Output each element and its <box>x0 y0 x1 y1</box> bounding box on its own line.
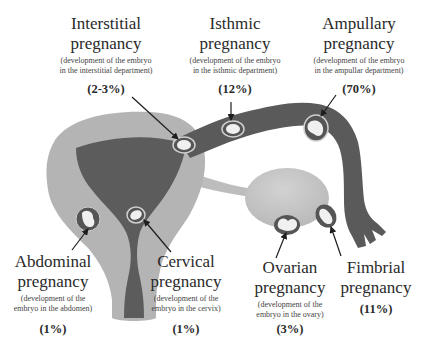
embryo-ampullary <box>304 115 328 141</box>
isthmic-desc-line1: (development of the embryo <box>180 56 290 66</box>
arrow-fimbrial <box>331 227 341 256</box>
ovarian-title-line1: Ovarian <box>252 258 328 278</box>
embryo-isthmic <box>222 121 244 137</box>
cervical-desc-line2: embryo in the cervix) <box>146 304 226 314</box>
cervical-percent: (1%) <box>146 323 226 336</box>
ovarian-percent: (3%) <box>252 323 328 336</box>
interstitial-desc-line1: (development of the embryo <box>46 56 166 66</box>
ovarian-desc-line1: (development of the <box>252 300 328 310</box>
interstitial-title-line2: pregnancy <box>46 34 166 54</box>
cervical-title-line1: Cervical <box>146 252 226 272</box>
isthmic-title-line2: pregnancy <box>180 34 290 54</box>
fimbrial-title-line2: pregnancy <box>336 278 416 298</box>
fimbrial-percent: (11%) <box>336 303 416 316</box>
arrow-ovarian <box>276 233 286 258</box>
embryo-ovarian <box>274 215 300 235</box>
cervical-desc-line1: (development of the <box>146 294 226 304</box>
ovarian-title-line2: pregnancy <box>252 278 328 298</box>
interstitial-desc-line2: in the interstitial department) <box>46 66 166 76</box>
ampullary-title-line2: pregnancy <box>304 34 414 54</box>
ampullary-title-line1: Ampullary <box>304 14 414 34</box>
label-isthmic: Isthmic pregnancy (development of the em… <box>180 14 290 96</box>
embryo-cervical <box>127 207 145 223</box>
abdominal-title-line1: Abdominal <box>8 252 98 272</box>
label-interstitial: Interstitial pregnancy (development of t… <box>46 14 166 96</box>
ampullary-desc-line1: (development of the embryo <box>304 56 414 66</box>
abdominal-desc-line2: embryo in the abdomen) <box>8 304 98 314</box>
abdominal-title-line2: pregnancy <box>8 272 98 292</box>
abdominal-desc-line1: (development of the <box>8 294 98 304</box>
embryo-interstitial <box>173 137 195 153</box>
label-ovarian: Ovarian pregnancy (development of the em… <box>252 258 328 336</box>
cervical-title-line2: pregnancy <box>146 272 226 292</box>
abdominal-percent: (1%) <box>8 323 98 336</box>
isthmic-desc-line2: in the isthmic department) <box>180 66 290 76</box>
label-cervical: Cervical pregnancy (development of the e… <box>146 252 226 336</box>
ectopic-pregnancy-diagram: Interstitial pregnancy (development of t… <box>0 0 429 346</box>
label-abdominal: Abdominal pregnancy (development of the … <box>8 252 98 336</box>
interstitial-title-line1: Interstitial <box>46 14 166 34</box>
ovarian-desc-line2: embryo in the ovary) <box>252 310 328 320</box>
label-fimbrial: Fimbrial pregnancy (11%) <box>336 258 416 316</box>
isthmic-percent: (12%) <box>180 83 290 96</box>
ampullary-percent: (70%) <box>304 83 414 96</box>
interstitial-percent: (2-3%) <box>46 83 166 96</box>
isthmic-title-line1: Isthmic <box>180 14 290 34</box>
fimbrial-title-line1: Fimbrial <box>336 258 416 278</box>
ampullary-desc-line2: in the ampullar department) <box>304 66 414 76</box>
embryo-abdominal <box>76 207 100 231</box>
label-ampullary: Ampullary pregnancy (development of the … <box>304 14 414 96</box>
